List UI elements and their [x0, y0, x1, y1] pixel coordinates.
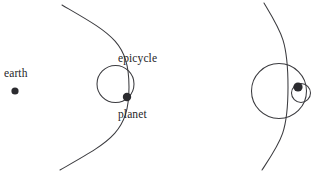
earth-label: earth	[4, 68, 27, 80]
planet-dot-right	[293, 82, 302, 91]
deferent-arc-right	[262, 3, 288, 170]
left-panel	[11, 5, 134, 170]
deferent-arc-left	[60, 5, 129, 170]
epicycle-label: epicycle	[118, 53, 157, 65]
planet-label: planet	[118, 109, 147, 121]
right-panel	[252, 3, 311, 170]
diagram-canvas	[0, 0, 322, 173]
planet-dot-left	[123, 93, 131, 101]
earth-dot	[11, 87, 18, 94]
epicycle-diagram: earth epicycle planet	[0, 0, 322, 173]
